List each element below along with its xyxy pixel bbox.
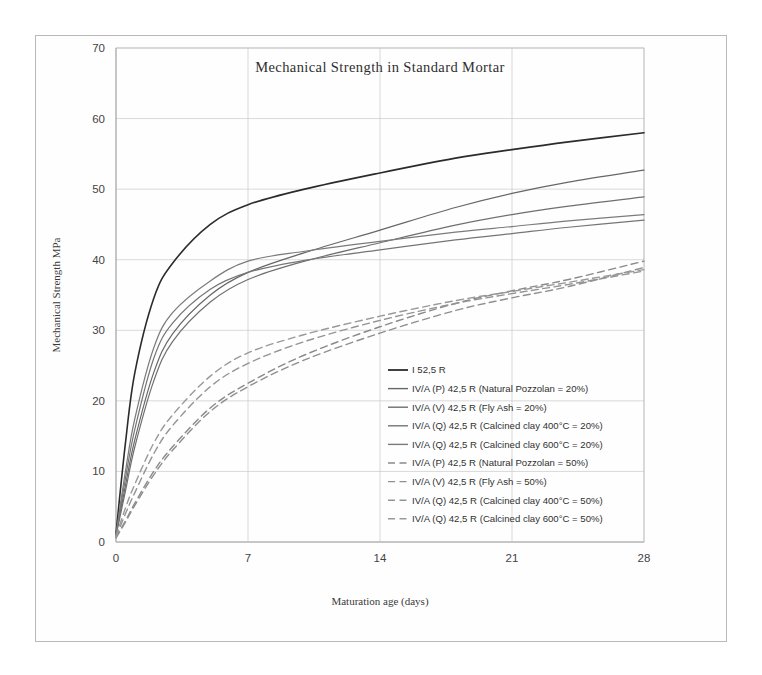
legend-label-0: I 52,5 R xyxy=(412,364,446,375)
y-tick-label: 50 xyxy=(92,183,105,195)
chart-title: Mechanical Strength in Standard Mortar xyxy=(255,59,505,75)
y-tick-label: 10 xyxy=(92,465,105,477)
x-tick-label: 0 xyxy=(113,552,119,564)
legend-label-8: IV/A (Q) 42,5 R (Calcined clay 600°C = 5… xyxy=(412,513,603,524)
y-tick-label: 0 xyxy=(99,536,105,548)
y-axis-title: Mechanical Strength MPa xyxy=(50,237,62,352)
y-tick-label: 20 xyxy=(92,395,105,407)
y-tick-label: 70 xyxy=(92,42,105,54)
legend: I 52,5 RIV/A (P) 42,5 R (Natural Pozzola… xyxy=(388,364,603,524)
legend-label-3: IV/A (Q) 42,5 R (Calcined clay 400°C = 2… xyxy=(412,420,603,431)
x-tick-label: 21 xyxy=(506,552,519,564)
legend-label-2: IV/A (V) 42,5 R (Fly Ash = 20%) xyxy=(412,402,547,413)
x-tick-label: 7 xyxy=(245,552,251,564)
x-axis-tick-labels: 07142128 xyxy=(113,552,651,564)
x-axis-title: Maturation age (days) xyxy=(331,595,428,608)
legend-label-7: IV/A (Q) 42,5 R (Calcined clay 400°C = 5… xyxy=(412,495,603,506)
mechanical-strength-line-chart: 07142128 010203040506070 Mechanical Stre… xyxy=(0,0,762,675)
x-tick-label: 14 xyxy=(374,552,387,564)
chart-container: 07142128 010203040506070 Mechanical Stre… xyxy=(0,0,762,675)
x-tick-label: 28 xyxy=(638,552,651,564)
legend-label-5: IV/A (P) 42,5 R (Natural Pozzolan = 50%) xyxy=(412,457,588,468)
legend-label-4: IV/A (Q) 42,5 R (Calcined clay 600°C = 2… xyxy=(412,439,603,450)
y-axis-tick-labels: 010203040506070 xyxy=(92,42,105,548)
legend-label-1: IV/A (P) 42,5 R (Natural Pozzolan = 20%) xyxy=(412,383,588,394)
y-tick-label: 40 xyxy=(92,254,105,266)
y-tick-label: 30 xyxy=(92,324,105,336)
legend-label-6: IV/A (V) 42,5 R (Fly Ash = 50%) xyxy=(412,476,547,487)
y-tick-label: 60 xyxy=(92,113,105,125)
